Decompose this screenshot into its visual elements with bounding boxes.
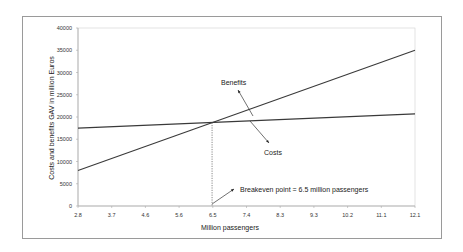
annotations: Benefits Costs Breakeven point = 6.5 mil… — [48, 56, 369, 232]
chart: 0500010000150002000025000300003500040000… — [0, 0, 463, 252]
y-tick-label: 25000 — [57, 92, 72, 98]
costs-label: Costs — [264, 149, 282, 156]
benefits-line — [78, 50, 415, 170]
x-tick-label: 2.8 — [74, 212, 82, 218]
x-tick-label: 4.6 — [142, 212, 150, 218]
benefits-label: Benefits — [221, 79, 247, 86]
x-tick-label: 8.3 — [276, 212, 284, 218]
breakeven-arrowhead — [231, 189, 234, 192]
breakeven-label: Breakeven point = 6.5 million passengers — [240, 186, 369, 194]
y-tick-label: 0 — [69, 203, 72, 209]
y-tick-label: 20000 — [57, 114, 72, 120]
y-axis-label: Costs and benefits GAV in million Euros — [48, 56, 55, 180]
series-lines — [78, 50, 415, 170]
x-tick-label: 12.1 — [410, 212, 421, 218]
x-tick-label: 7.4 — [243, 212, 251, 218]
x-tick-label: 5.6 — [175, 212, 183, 218]
y-tick-label: 10000 — [57, 159, 72, 165]
axes — [76, 28, 415, 208]
breakeven-arrow — [212, 189, 234, 204]
y-tick-label: 35000 — [57, 47, 72, 53]
y-tick-label: 5000 — [60, 181, 72, 187]
y-tick-label: 40000 — [57, 25, 72, 31]
x-axis-label: Million passengers — [201, 224, 259, 232]
x-tick-label: 3.7 — [108, 212, 116, 218]
y-tick-label: 15000 — [57, 136, 72, 142]
x-tick-label: 10.2 — [342, 212, 353, 218]
x-tick-label: 11.1 — [376, 212, 386, 218]
x-tick-label: 9.3 — [310, 212, 318, 218]
costs-arrow — [250, 121, 269, 143]
x-tick-label: 6.5 — [209, 212, 217, 218]
y-tick-label: 30000 — [57, 70, 72, 76]
plot-area — [78, 28, 415, 206]
costs-line — [78, 114, 415, 128]
